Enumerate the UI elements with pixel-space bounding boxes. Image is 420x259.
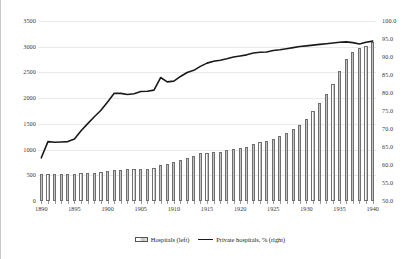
x-axis-tickmark (127, 201, 128, 204)
x-axis-tickmark (333, 201, 334, 204)
x-axis-tickmark (48, 201, 49, 204)
right-axis-tick: 100.0 (382, 17, 396, 24)
x-axis-tickmark (260, 201, 261, 204)
x-axis-tickmark (68, 201, 69, 204)
x-axis-tickmark (101, 201, 102, 204)
x-axis-tickmark (353, 201, 354, 204)
legend-label-hospitals: Hospitals (left) (151, 236, 190, 243)
right-axis-tick: 90.0 (382, 53, 393, 60)
x-axis-tickmark (81, 201, 82, 204)
right-axis-tick: 75.0 (382, 107, 393, 114)
x-axis-tickmark (55, 201, 56, 204)
x-axis-tickmark (161, 201, 162, 204)
right-axis-tick: 65.0 (382, 143, 393, 150)
left-axis-tick: 3000 (23, 43, 36, 50)
line-series (38, 21, 376, 201)
x-axis-tickmark (240, 201, 241, 204)
x-axis-tick: 1890 (35, 205, 47, 212)
x-axis-tickmark (147, 201, 148, 204)
x-axis-tickmark (134, 201, 135, 204)
x-axis-tickmark (167, 201, 168, 204)
x-axis-tickmark (121, 201, 122, 204)
x-axis-tickmark (306, 201, 307, 204)
chart-legend: Hospitals (left) Private hospitals, % (r… (0, 236, 420, 243)
x-axis-tickmark (174, 201, 175, 204)
x-axis-tickmark (74, 201, 75, 204)
left-axis-tick: 3500 (23, 17, 36, 24)
left-axis-tick: 0 (33, 197, 36, 204)
bar-swatch-icon (135, 237, 148, 242)
x-axis-tick: 1900 (101, 205, 113, 212)
x-axis-tickmark (214, 201, 215, 204)
right-axis-tick: 50.0 (382, 197, 393, 204)
x-axis-tickmark (340, 201, 341, 204)
x-axis-tickmark (359, 201, 360, 204)
left-axis-tick: 500 (26, 171, 36, 178)
x-axis-tickmark (108, 201, 109, 204)
x-axis-tickmark (194, 201, 195, 204)
x-axis-tickmark (227, 201, 228, 204)
right-axis-line (0, 181, 1, 259)
x-axis-tickmark (154, 201, 155, 204)
x-axis-tickmark (141, 201, 142, 204)
x-axis-tick: 1920 (234, 205, 246, 212)
x-axis-tickmark (267, 201, 268, 204)
x-axis-tick: 1935 (333, 205, 345, 212)
x-axis-tickmark (320, 201, 321, 204)
right-axis-tick: 70.0 (382, 125, 393, 132)
x-axis-tickmark (41, 201, 42, 204)
x-axis-tickmark (187, 201, 188, 204)
x-axis-tickmark (180, 201, 181, 204)
x-axis-tickmark (234, 201, 235, 204)
x-axis-tick: 1905 (135, 205, 147, 212)
plot-area (38, 21, 376, 201)
x-axis-tickmark (88, 201, 89, 204)
right-axis-tick: 95.0 (382, 35, 393, 42)
x-axis-tickmark (300, 201, 301, 204)
x-axis-tickmark (220, 201, 221, 204)
x-axis-tickmark (313, 201, 314, 204)
left-axis-tick: 2500 (23, 68, 36, 75)
x-axis-tickmark (253, 201, 254, 204)
x-axis-tick: 1910 (168, 205, 180, 212)
legend-item-hospitals: Hospitals (left) (135, 236, 190, 243)
right-axis-tick: 85.0 (382, 71, 393, 78)
x-axis-tickmark (326, 201, 327, 204)
x-axis-tickmark (366, 201, 367, 204)
right-axis-tick: 55.0 (382, 179, 393, 186)
left-axis-tick: 1000 (23, 146, 36, 153)
x-axis-tickmark (114, 201, 115, 204)
x-axis-tickmark (247, 201, 248, 204)
x-axis-tickmark (94, 201, 95, 204)
x-axis-tickmark (280, 201, 281, 204)
x-axis-tick: 1940 (367, 205, 379, 212)
left-axis-tick: 1500 (23, 120, 36, 127)
x-axis-tickmark (273, 201, 274, 204)
chart-container: 0500100015002000250030003500 50.055.060.… (0, 0, 420, 259)
x-axis-tick: 1915 (201, 205, 213, 212)
x-axis-tickmark (200, 201, 201, 204)
x-axis-tick: 1895 (68, 205, 80, 212)
x-axis-tick: 1930 (300, 205, 312, 212)
x-axis-tickmark (61, 201, 62, 204)
x-axis-tickmark (207, 201, 208, 204)
legend-item-private-hospitals: Private hospitals, % (right) (198, 236, 285, 243)
legend-label-private-hospitals: Private hospitals, % (right) (216, 236, 285, 243)
x-axis-tickmark (287, 201, 288, 204)
left-axis-line (0, 0, 1, 181)
x-axis-tickmark (373, 201, 374, 204)
x-axis-tickmark (293, 201, 294, 204)
line-swatch-icon (198, 239, 213, 240)
x-axis-tickmark (346, 201, 347, 204)
right-axis-tick: 60.0 (382, 161, 393, 168)
x-axis-tick: 1925 (267, 205, 279, 212)
left-axis-tick: 2000 (23, 94, 36, 101)
right-axis-tick: 80.0 (382, 89, 393, 96)
